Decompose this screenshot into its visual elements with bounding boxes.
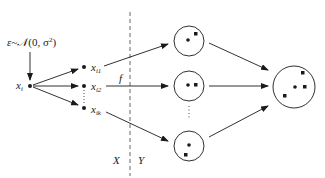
- perturbed-node-label-k: xik: [90, 103, 102, 117]
- output-space-label: Y: [138, 154, 146, 166]
- source-node-dot: [28, 84, 32, 88]
- output-set-2: [174, 71, 204, 101]
- aggregate-arrow-1: [209, 43, 268, 70]
- noise-distribution-label: ε~𝒩(0, σ2): [7, 36, 56, 49]
- input-space-label: X: [112, 154, 121, 166]
- perturbed-node-label-1: xi1: [90, 61, 101, 75]
- map-arrow-k: [106, 112, 168, 141]
- output-set-1: [174, 26, 204, 56]
- perturbed-node-dot-2: [82, 84, 86, 88]
- output-set-k: [174, 131, 204, 161]
- diagram-canvas: ε~𝒩(0, σ2) xi xi1 xi2 xik f X Y: [0, 0, 325, 178]
- function-label: f: [119, 72, 124, 84]
- source-node-label: xi: [15, 79, 23, 93]
- map-arrow-1: [104, 44, 168, 66]
- aggregate-arrow-k: [209, 106, 268, 137]
- aggregated-output-set: [273, 66, 315, 108]
- perturb-arrow-1: [33, 69, 78, 85]
- perturbed-node-dot-1: [82, 65, 86, 69]
- perturbed-node-dot-k: [82, 106, 86, 110]
- perturb-arrow-k: [33, 87, 78, 105]
- perturbed-node-label-2: xi2: [90, 80, 102, 94]
- diagram-svg: ε~𝒩(0, σ2) xi xi1 xi2 xik f X Y: [0, 0, 325, 178]
